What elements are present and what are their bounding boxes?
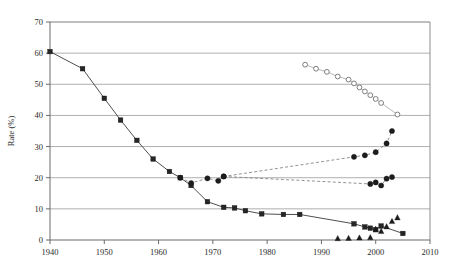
marker-filled-squares-declining-5 bbox=[151, 157, 156, 162]
marker-filled-triangles-7 bbox=[389, 218, 395, 223]
marker-open-circles-4 bbox=[346, 77, 351, 82]
y-axis-title: Rate (%) bbox=[6, 116, 16, 147]
marker-filled-triangles-5 bbox=[378, 228, 384, 233]
marker-open-circles-10 bbox=[379, 101, 384, 106]
x-tick-label-1940: 1940 bbox=[42, 247, 59, 257]
marker-filled-circles-upper-branch-0 bbox=[178, 175, 183, 180]
axis-ticks-group bbox=[46, 22, 430, 244]
marker-filled-squares-declining-16 bbox=[352, 222, 357, 227]
series-filled-circles-lower-branch bbox=[221, 174, 394, 188]
marker-filled-circles-upper-branch-1 bbox=[189, 180, 194, 185]
marker-open-circles-2 bbox=[324, 69, 329, 74]
marker-filled-triangles-3 bbox=[367, 235, 373, 240]
marker-filled-circles-upper-branch-5 bbox=[351, 154, 356, 159]
x-tick-label-2010: 2010 bbox=[422, 247, 439, 257]
marker-filled-squares-declining-11 bbox=[232, 206, 237, 211]
y-tick-label-30: 30 bbox=[35, 142, 44, 152]
y-tick-label-0: 0 bbox=[39, 235, 43, 245]
marker-filled-squares-declining-15 bbox=[297, 212, 302, 217]
marker-filled-squares-declining-14 bbox=[281, 212, 286, 217]
x-tick-label-1970: 1970 bbox=[204, 247, 221, 257]
series-filled-circles-upper-branch bbox=[178, 128, 395, 185]
marker-filled-circles-upper-branch-8 bbox=[384, 141, 389, 146]
marker-filled-squares-declining-3 bbox=[118, 118, 123, 123]
series-open-circles bbox=[303, 62, 400, 117]
marker-filled-squares-declining-0 bbox=[48, 49, 53, 54]
marker-open-circles-6 bbox=[357, 85, 362, 90]
series-path-open-circles bbox=[305, 65, 397, 115]
marker-filled-circles-upper-branch-6 bbox=[362, 153, 367, 158]
marker-filled-squares-declining-17 bbox=[363, 225, 368, 230]
marker-filled-squares-declining-1 bbox=[80, 66, 85, 71]
y-tick-label-20: 20 bbox=[35, 173, 44, 183]
marker-open-circles-7 bbox=[362, 89, 367, 94]
x-tick-label-1950: 1950 bbox=[96, 247, 113, 257]
y-tick-label-60: 60 bbox=[35, 48, 44, 58]
marker-filled-triangles-8 bbox=[395, 215, 401, 220]
marker-filled-circles-lower-branch-5 bbox=[389, 174, 394, 179]
marker-filled-triangles-6 bbox=[384, 224, 390, 229]
marker-filled-circles-lower-branch-4 bbox=[384, 176, 389, 181]
marker-filled-circles-upper-branch-3 bbox=[216, 178, 221, 183]
y-tick-label-50: 50 bbox=[35, 79, 44, 89]
marker-open-circles-8 bbox=[368, 93, 373, 98]
marker-filled-circles-upper-branch-7 bbox=[373, 150, 378, 155]
marker-open-circles-3 bbox=[335, 74, 340, 79]
y-tick-label-10: 10 bbox=[35, 204, 44, 214]
gridlines-group bbox=[50, 22, 430, 209]
marker-open-circles-9 bbox=[373, 97, 378, 102]
series-path-filled-circles-upper-branch bbox=[180, 131, 392, 183]
marker-open-circles-11 bbox=[395, 112, 400, 117]
x-tick-label-1960: 1960 bbox=[150, 247, 167, 257]
marker-filled-squares-declining-20 bbox=[379, 224, 384, 229]
marker-filled-circles-lower-branch-3 bbox=[379, 183, 384, 188]
marker-filled-triangles-2 bbox=[357, 235, 363, 240]
marker-filled-triangles-0 bbox=[335, 235, 341, 240]
marker-filled-triangles-1 bbox=[346, 235, 352, 240]
marker-filled-squares-declining-21 bbox=[401, 231, 406, 236]
marker-filled-circles-lower-branch-2 bbox=[373, 180, 378, 185]
plot-frame bbox=[50, 22, 430, 240]
marker-filled-squares-declining-12 bbox=[243, 208, 248, 213]
marker-filled-circles-upper-branch-9 bbox=[389, 128, 394, 133]
marker-filled-squares-declining-10 bbox=[221, 205, 226, 210]
rate-over-time-line-chart: 0102030405060701940195019601970198019902… bbox=[0, 0, 468, 273]
marker-filled-circles-upper-branch-2 bbox=[205, 176, 210, 181]
marker-filled-squares-declining-6 bbox=[167, 169, 172, 174]
data-series-group bbox=[48, 49, 405, 240]
marker-filled-squares-declining-13 bbox=[259, 212, 264, 217]
marker-filled-squares-declining-9 bbox=[205, 199, 210, 204]
x-tick-label-1990: 1990 bbox=[313, 247, 330, 257]
x-tick-label-2000: 2000 bbox=[367, 247, 384, 257]
marker-open-circles-1 bbox=[314, 66, 319, 71]
marker-filled-squares-declining-4 bbox=[135, 138, 140, 143]
series-filled-squares-declining bbox=[48, 49, 405, 235]
x-tick-label-1980: 1980 bbox=[259, 247, 276, 257]
y-tick-label-70: 70 bbox=[35, 17, 44, 27]
marker-filled-circles-lower-branch-0 bbox=[221, 174, 226, 179]
marker-filled-squares-declining-2 bbox=[102, 96, 107, 101]
marker-open-circles-0 bbox=[303, 62, 308, 67]
chart-container: 0102030405060701940195019601970198019902… bbox=[0, 0, 468, 273]
marker-filled-circles-lower-branch-1 bbox=[368, 181, 373, 186]
marker-filled-squares-declining-18 bbox=[368, 226, 373, 231]
marker-open-circles-5 bbox=[352, 81, 357, 86]
y-tick-label-40: 40 bbox=[35, 110, 44, 120]
